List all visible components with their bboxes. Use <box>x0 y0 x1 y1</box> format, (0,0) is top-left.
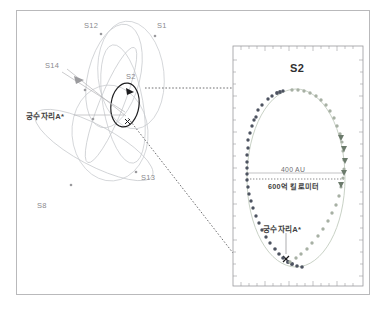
right-panel-s2-detail <box>0 0 388 330</box>
figure-root: S12 S1 S14 S2 S13 S8 궁수자리A* <box>0 0 388 330</box>
s2-panel-title: S2 <box>290 62 304 74</box>
black-hole-label-right: 궁수자리A* <box>263 223 301 234</box>
scale-label-metric: 600억 킬로미터 <box>268 181 320 191</box>
scale-label-au: 400 AU <box>281 166 305 173</box>
